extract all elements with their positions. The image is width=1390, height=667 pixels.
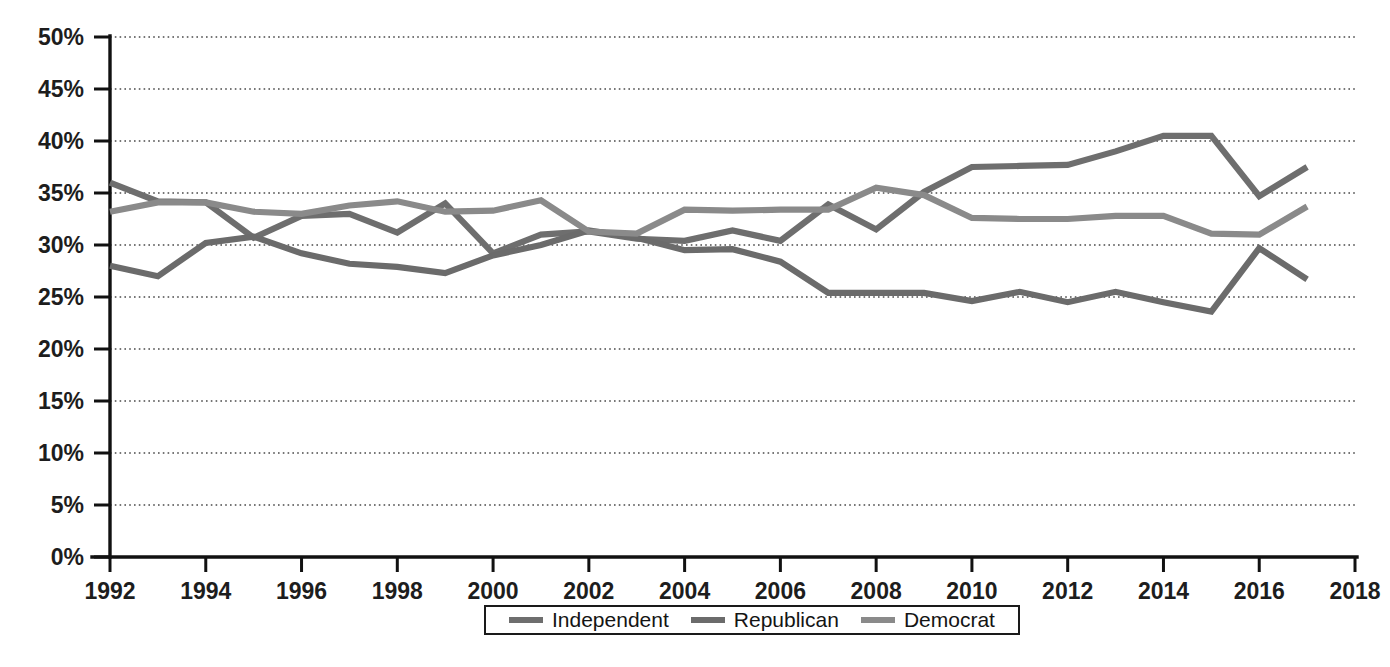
y-tick-label: 45% <box>38 76 84 102</box>
x-tick-label: 1992 <box>84 578 135 604</box>
legend-swatch-icon <box>509 617 543 623</box>
x-tick-label: 2018 <box>1329 578 1380 604</box>
x-tick-label: 2008 <box>851 578 902 604</box>
x-tick-label: 1996 <box>276 578 327 604</box>
legend-label: Independent <box>552 608 669 632</box>
gridlines <box>110 37 1355 505</box>
x-tick-label: 2006 <box>755 578 806 604</box>
y-tick-label: 30% <box>38 232 84 258</box>
legend-label: Republican <box>734 608 839 632</box>
data-series <box>110 136 1307 312</box>
legend-label: Democrat <box>904 608 995 632</box>
y-axis-tick-labels: 0%5%10%15%20%25%30%35%40%45%50% <box>38 24 84 570</box>
y-tick-label: 50% <box>38 24 84 50</box>
x-tick-label: 1994 <box>180 578 231 604</box>
x-tick-label: 2014 <box>1138 578 1189 604</box>
y-tick-label: 5% <box>51 492 84 518</box>
x-tick-label: 2002 <box>563 578 614 604</box>
y-tick-label: 20% <box>38 336 84 362</box>
chart-plot-area: 0%5%10%15%20%25%30%35%40%45%50% 19921994… <box>0 0 1390 667</box>
x-tick-label: 2000 <box>467 578 518 604</box>
series-line-republican <box>110 230 1307 311</box>
x-tick-label: 2012 <box>1042 578 1093 604</box>
legend-swatch-icon <box>861 617 895 623</box>
y-tick-label: 15% <box>38 388 84 414</box>
y-tick-label: 10% <box>38 440 84 466</box>
series-line-democrat <box>110 188 1307 235</box>
legend-item-independent: Independent <box>509 608 669 632</box>
x-tick-label: 2010 <box>946 578 997 604</box>
x-tick-label: 2004 <box>659 578 710 604</box>
y-tick-label: 40% <box>38 128 84 154</box>
series-line-independent <box>110 136 1307 254</box>
chart-legend: IndependentRepublicanDemocrat <box>484 605 1020 635</box>
line-chart: 0%5%10%15%20%25%30%35%40%45%50% 19921994… <box>0 0 1390 667</box>
x-axis-tick-labels: 1992199419961998200020022004200620082010… <box>84 578 1380 604</box>
y-tick-label: 0% <box>51 544 84 570</box>
legend-item-democrat: Democrat <box>861 608 995 632</box>
y-tick-label: 25% <box>38 284 84 310</box>
x-tick-label: 2016 <box>1234 578 1285 604</box>
y-tick-label: 35% <box>38 180 84 206</box>
x-tick-label: 1998 <box>372 578 423 604</box>
legend-swatch-icon <box>691 617 725 623</box>
legend-item-republican: Republican <box>691 608 839 632</box>
